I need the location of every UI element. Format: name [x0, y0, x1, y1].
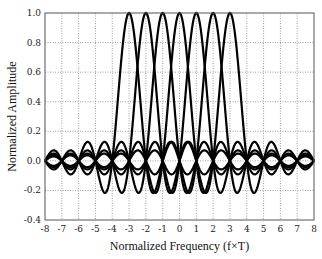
y-tick-label: -0.2 [24, 185, 41, 195]
x-tick-label: 2 [210, 224, 216, 234]
x-tick-label: -5 [91, 224, 100, 234]
series-group [45, 13, 314, 193]
x-tick-label: 4 [244, 224, 250, 234]
chart: -8-7-6-5-4-3-2-1012345678 -0.4-0.20.00.2… [0, 0, 322, 259]
x-tick-label: -3 [125, 224, 134, 234]
y-tick-label: 0.8 [27, 38, 42, 48]
x-tick-label: 0 [177, 224, 183, 234]
x-tick-label: -7 [57, 224, 66, 234]
x-tick-label: 5 [261, 224, 267, 234]
y-tick-label: -0.4 [24, 215, 42, 225]
y-axis-label: Normalized Amplitude [5, 61, 19, 171]
x-tick-label: -6 [74, 224, 83, 234]
x-tick-label: -2 [141, 224, 150, 234]
x-tick-label: -4 [108, 224, 117, 234]
x-tick-label: 3 [227, 224, 233, 234]
y-tick-label: 0.0 [27, 156, 42, 166]
y-tick-label: 0.4 [27, 97, 42, 107]
x-tick-label: 7 [294, 224, 300, 234]
x-tick-labels: -8-7-6-5-4-3-2-1012345678 [41, 224, 318, 234]
y-tick-label: 0.6 [27, 67, 42, 77]
x-axis-label: Normalized Frequency (f×T) [110, 239, 249, 253]
x-tick-label: 6 [278, 224, 284, 234]
y-tick-label: 1.0 [27, 8, 42, 18]
x-tick-label: 8 [311, 224, 317, 234]
x-tick-label: -8 [41, 224, 50, 234]
grid [45, 13, 314, 220]
x-tick-label: 1 [193, 224, 199, 234]
y-tick-labels: -0.4-0.20.00.20.40.60.81.0 [24, 8, 42, 225]
y-tick-label: 0.2 [27, 126, 41, 136]
x-tick-label: -1 [158, 224, 167, 234]
